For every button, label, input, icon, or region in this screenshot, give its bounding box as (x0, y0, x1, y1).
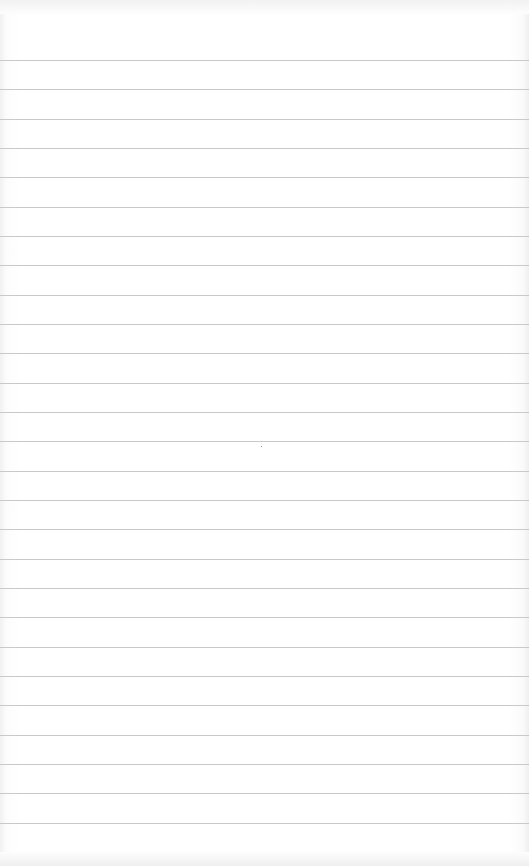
ruled-line (0, 793, 529, 794)
ruled-line (0, 823, 529, 824)
ruled-line (0, 529, 529, 530)
bottom-edge (0, 852, 529, 866)
ruled-line (0, 676, 529, 677)
ruled-line (0, 119, 529, 120)
ruled-line (0, 324, 529, 325)
ruled-line (0, 207, 529, 208)
ruled-line (0, 500, 529, 501)
top-edge (0, 0, 529, 14)
ruled-line (0, 148, 529, 149)
ruled-line (0, 383, 529, 384)
paper-speck (261, 446, 262, 447)
ruled-line (0, 705, 529, 706)
ruled-line (0, 353, 529, 354)
ruled-line (0, 441, 529, 442)
ruled-line (0, 295, 529, 296)
ruled-line (0, 764, 529, 765)
ruled-line (0, 412, 529, 413)
ruled-line (0, 588, 529, 589)
ruled-line (0, 89, 529, 90)
ruled-line (0, 60, 529, 61)
ruled-line (0, 177, 529, 178)
ruled-line (0, 236, 529, 237)
ruled-line (0, 647, 529, 648)
lined-paper-sheet (0, 0, 529, 866)
ruled-line (0, 559, 529, 560)
ruled-line (0, 471, 529, 472)
ruled-line (0, 735, 529, 736)
ruled-line (0, 617, 529, 618)
ruled-line (0, 265, 529, 266)
